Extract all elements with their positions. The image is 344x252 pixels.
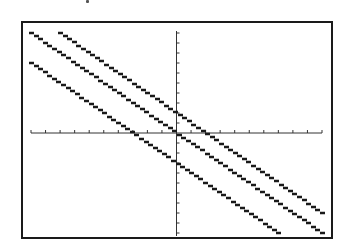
graph-plot bbox=[0, 0, 344, 252]
plot-line-1 bbox=[58, 33, 325, 213]
plot-line-3 bbox=[29, 63, 281, 233]
